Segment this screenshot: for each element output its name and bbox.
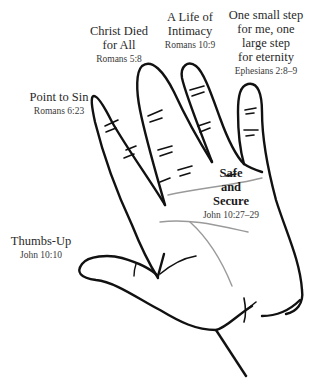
label-ring-ref: Romans 5:8 (72, 54, 166, 65)
label-pinky-title: Point to Sin (12, 90, 106, 104)
label-index-title-4: for eternity (216, 50, 316, 64)
thumb-outline (79, 256, 252, 330)
label-pinky-ref: Romans 6:23 (12, 106, 106, 117)
label-palm-ref: John 10:27–29 (186, 210, 276, 221)
label-palm-line-3: Secure (186, 194, 276, 208)
head-line (160, 221, 248, 232)
wrist-line (216, 330, 246, 376)
life-line (190, 222, 232, 286)
label-index-title-3: large step (216, 36, 316, 50)
label-index-ref: Ephesians 2:8–9 (216, 66, 316, 77)
label-palm-line-1: Safe (186, 166, 276, 180)
label-palm-line-2: and (186, 180, 276, 194)
middle-finger-outline (182, 64, 244, 164)
label-thumb-title: Thumbs-Up (6, 234, 76, 248)
label-palm: Safe and Secure John 10:27–29 (186, 166, 276, 221)
label-index: One small step for me, one large step fo… (216, 8, 316, 77)
palm-heel-outline (262, 300, 300, 316)
label-index-title-2: for me, one (216, 22, 316, 36)
label-index-title-1: One small step (216, 8, 316, 22)
label-thumb-ref: John 10:10 (6, 250, 76, 261)
label-pinky: Point to Sin Romans 6:23 (12, 90, 106, 117)
label-thumb: Thumbs-Up John 10:10 (6, 234, 76, 261)
pinky-finger-outline (92, 96, 165, 278)
